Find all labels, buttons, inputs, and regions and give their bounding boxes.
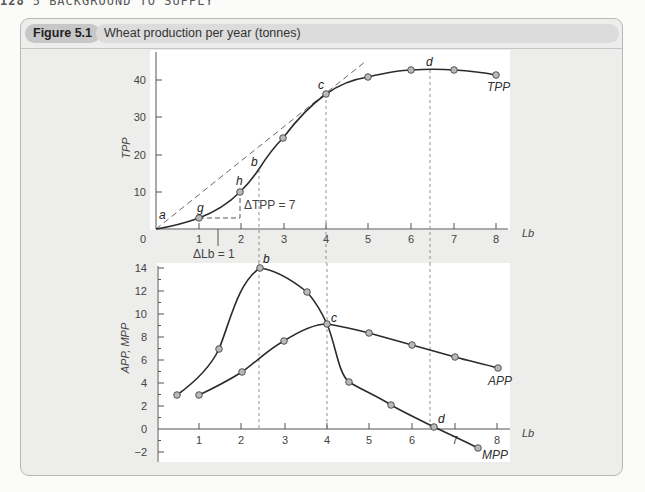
point-a-label: a (159, 208, 166, 222)
point-b-label: b (251, 155, 258, 169)
app-mpp-ytick-4: 4 (141, 377, 147, 389)
app-mpp-xtick-3: 3 (282, 434, 288, 446)
app-mpp-ytick-10: 10 (135, 308, 147, 320)
tpp-ytick-20: 20 (134, 149, 146, 161)
point-c-lower-label: c (331, 311, 337, 325)
app-mpp-x-axis-title: Lb (522, 427, 534, 439)
point-g-label: g (197, 201, 204, 215)
app-mpp-y-axis-title: APP, MPP (119, 322, 131, 374)
app-mpp-xtick-5: 5 (366, 434, 372, 446)
app-mpp-ytick-neg2: −2 (134, 446, 147, 458)
tpp-xtick-3: 3 (281, 233, 287, 245)
app-mpp-xtick-6: 6 (409, 434, 415, 446)
app-curve-label: APP (487, 374, 512, 388)
delta-lb-label: ΔLb = 1 (193, 247, 235, 261)
tpp-xtick-7: 7 (451, 233, 457, 245)
app-mpp-xtick-1: 1 (196, 434, 202, 446)
tpp-ytick-10: 10 (134, 186, 146, 198)
app-mpp-ytick-6: 6 (141, 354, 147, 366)
app-mpp-xtick-4: 4 (324, 434, 330, 446)
app-mpp-chart: 14 12 10 8 6 4 2 0 −2 1 2 3 4 5 6 7 8 Lb… (119, 252, 534, 462)
figure-charts: 10 20 30 40 0 1 2 3 4 5 6 7 8 Lb TPP (0, 0, 645, 492)
app-mpp-plot-area (157, 263, 510, 462)
delta-tpp-label: ΔTPP = 7 (244, 198, 296, 212)
tpp-ytick-30: 30 (134, 111, 146, 123)
tpp-xtick-8: 8 (493, 233, 499, 245)
app-mpp-ytick-8: 8 (141, 331, 147, 343)
mpp-curve-label: MPP (482, 448, 508, 462)
point-d-label: d (426, 55, 433, 69)
point-h-label: h (236, 174, 243, 188)
app-mpp-xtick-2: 2 (238, 434, 244, 446)
tpp-y-axis-title: TPP (120, 137, 132, 159)
tpp-origin-label: 0 (140, 233, 146, 245)
tpp-xtick-1: 1 (196, 233, 202, 245)
tpp-curve-label: TPP (487, 80, 510, 94)
tpp-x-axis-title: Lb (522, 227, 534, 239)
point-d-lower-label: d (438, 412, 445, 426)
point-c-label: c (318, 78, 324, 92)
app-mpp-ytick-2: 2 (141, 400, 147, 412)
tpp-xtick-2: 2 (238, 233, 244, 245)
tpp-plot-area (150, 50, 510, 230)
tpp-xtick-5: 5 (365, 233, 371, 245)
app-mpp-ytick-0: 0 (141, 423, 147, 435)
tpp-ytick-40: 40 (134, 74, 146, 86)
point-b-lower-label: b (263, 252, 270, 266)
app-mpp-xtick-8: 8 (494, 434, 500, 446)
app-mpp-ytick-14: 14 (135, 262, 147, 274)
tpp-xtick-6: 6 (408, 233, 414, 245)
app-mpp-ytick-12: 12 (135, 285, 147, 297)
